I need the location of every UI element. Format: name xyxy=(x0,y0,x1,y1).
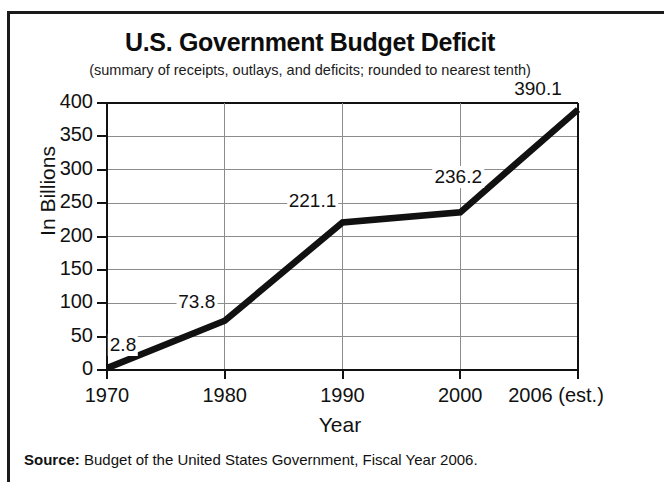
y-tick-label: 300 xyxy=(31,157,93,180)
x-axis-title: Year xyxy=(100,413,580,437)
source-label: Source: xyxy=(24,451,80,468)
plot-area: 050100150200250300350400 197019801990200… xyxy=(10,14,664,414)
y-tick-label: 150 xyxy=(31,257,93,280)
axis-ticks xyxy=(97,103,578,379)
data-point-label: 2.8 xyxy=(108,334,138,356)
data-point-label: 73.8 xyxy=(176,291,217,313)
data-point-label: 221.1 xyxy=(287,190,339,212)
x-tick-label: 1980 xyxy=(203,384,248,407)
y-tick-label: 0 xyxy=(31,357,93,380)
x-tick-label: 2000 xyxy=(438,384,483,407)
y-tick-label: 350 xyxy=(31,123,93,146)
x-tick-label: 2006 (est.) xyxy=(508,384,604,407)
y-tick-label: 100 xyxy=(31,290,93,313)
y-tick-label: 50 xyxy=(31,324,93,347)
chart-figure: U.S. Government Budget Deficit (summary … xyxy=(7,11,664,482)
source-note: Source: Budget of the United States Gove… xyxy=(24,451,478,468)
y-tick-label: 250 xyxy=(31,190,93,213)
x-tick-label: 1990 xyxy=(320,384,365,407)
y-tick-label: 200 xyxy=(31,224,93,247)
y-tick-label: 400 xyxy=(31,90,93,113)
data-point-label: 390.1 xyxy=(512,78,564,100)
x-tick-label: 1970 xyxy=(85,384,130,407)
source-body: Budget of the United States Government, … xyxy=(80,451,478,468)
data-point-label: 236.2 xyxy=(432,166,484,188)
